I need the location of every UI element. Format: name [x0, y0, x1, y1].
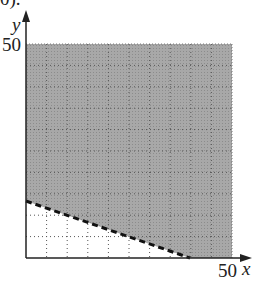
x-axis-arrow: [240, 254, 252, 262]
y-axis-arrow: [22, 10, 30, 22]
plot-area: [0, 0, 258, 286]
